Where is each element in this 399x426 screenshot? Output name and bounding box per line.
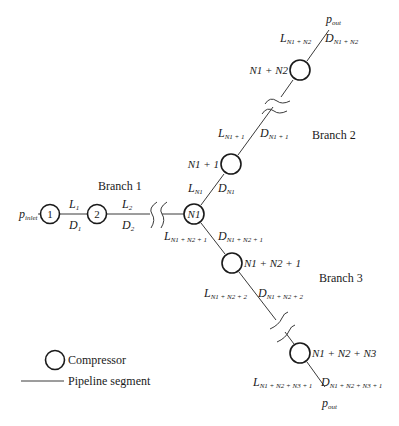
compressor-1: 1: [41, 205, 60, 224]
segment-N1pN2p1-diameter: DN1 + N2 + 1: [217, 229, 263, 244]
segment-2-length: L2: [121, 197, 133, 212]
outlet-pressure-label-branch3: pout: [321, 396, 338, 411]
segment-N1pN2p2-diameter: DN1 + N2 + 2: [257, 286, 303, 301]
segment-N1pN2p1-length: LN1 + N2 + 1: [163, 229, 207, 244]
segment-N1-diameter: DN1: [217, 181, 235, 196]
compressor-N1pN2pN3: N1 + N2 + N3: [290, 343, 377, 363]
pipe-break-N1pN2pN3: [285, 332, 294, 344]
compressor-N1: N1: [184, 204, 204, 224]
segment-1-diameter: D1: [68, 218, 81, 233]
break-icon: [270, 312, 288, 329]
segment-N1-length: LN1: [187, 181, 203, 196]
segment-N1pN2pN3p1-diameter: DN1 + N2 + N3 + 1: [320, 375, 382, 390]
segment-2-diameter: D2: [121, 218, 135, 233]
break-icon: [262, 109, 287, 114]
inlet-pressure-label: pinlet: [18, 207, 38, 222]
compressor-N1-label: N1: [187, 208, 201, 220]
segment-N1p1-length: LN1 + 1: [217, 126, 245, 141]
pipe-break-N1pN2: [281, 80, 293, 97]
break-icon: [265, 99, 290, 104]
outlet-pressure-label-branch2: pout: [325, 12, 342, 27]
branch-3-label: Branch 3: [319, 271, 363, 285]
compressor-1-label: 1: [47, 208, 53, 220]
compressor-N1pN2pN3-label: N1 + N2 + N3: [311, 347, 377, 359]
branch-1-label: Branch 1: [98, 179, 142, 193]
legend: Compressor Pipeline segment: [21, 351, 151, 389]
break-icon: [161, 202, 167, 228]
compressor-2: 2: [88, 205, 107, 224]
branch-2-label: Branch 2: [312, 128, 356, 142]
compressor-N1pN2p1: N1 + N2 + 1: [222, 253, 301, 273]
segment-N1pN2-length: LN1 + N2: [279, 31, 312, 46]
compressor-N1pN2: N1 + N2: [248, 60, 310, 80]
segment-N1pN2pN3p1-length: LN1 + N2 + N3 + 1: [252, 375, 312, 390]
compressor-N1pN2p1-label: N1 + N2 + 1: [243, 257, 301, 269]
segment-N1p1-diameter: DN1 + 1: [259, 126, 289, 141]
segment-N1pN2-diameter: DN1 + N2: [324, 31, 359, 46]
segment-N1pN2p2-length: LN1 + N2 + 2: [203, 286, 247, 301]
segment-1-length: L1: [68, 197, 79, 212]
compressor-2-label: 2: [94, 208, 100, 220]
pipeline-network-diagram: 1 2 N1 N1 + 1 N1 + N2 N1 + N2 + 1 N1 + N…: [0, 0, 399, 426]
compressor-N1pN2-label: N1 + N2: [248, 64, 288, 76]
pipeline-segments: [38, 30, 329, 387]
compressor-N1p1-label: N1 + 1: [187, 158, 219, 170]
legend-pipeline-label: Pipeline segment: [68, 374, 151, 388]
break-icon: [151, 202, 157, 228]
compressor-N1p1: N1 + 1: [187, 154, 241, 174]
legend-compressor-label: Compressor: [68, 353, 126, 367]
legend-compressor-icon: [46, 351, 65, 370]
